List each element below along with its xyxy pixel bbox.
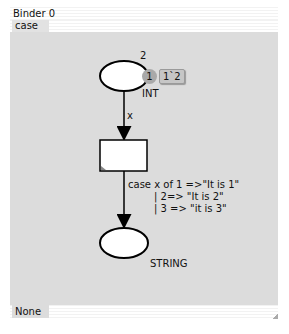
arc-out-inscription-line3: | 3 => "it is 3" [154, 203, 227, 214]
bottom-tab-row: None [10, 305, 278, 319]
binder-window: Binder 0 case 2 1 1`2 INT x [10, 7, 278, 325]
token-count-badge[interactable]: 1 [142, 69, 157, 84]
transition[interactable] [100, 140, 147, 171]
tab-none[interactable]: None [12, 305, 49, 318]
window-title: Binder 0 [13, 8, 55, 19]
arc-out-inscription-line2: | 2=> "It is 2" [154, 191, 224, 202]
initial-marking-label: 2 [140, 50, 146, 61]
title-bar[interactable]: Binder 0 [10, 7, 278, 20]
place-top[interactable] [100, 61, 148, 91]
current-marking-label[interactable]: 1`2 [159, 69, 185, 84]
net-canvas[interactable]: 2 1 1`2 INT x case x of 1 =>"It is 1" | … [10, 32, 278, 305]
resize-grip-icon[interactable] [272, 313, 278, 319]
colorset-string-label: STRING [150, 258, 188, 269]
arc-in-inscription: x [127, 110, 133, 121]
tab-row: case [10, 20, 278, 32]
arc-out-inscription-line1: case x of 1 =>"It is 1" [128, 179, 239, 190]
place-bottom[interactable] [100, 228, 148, 258]
colorset-int-label: INT [142, 88, 159, 99]
